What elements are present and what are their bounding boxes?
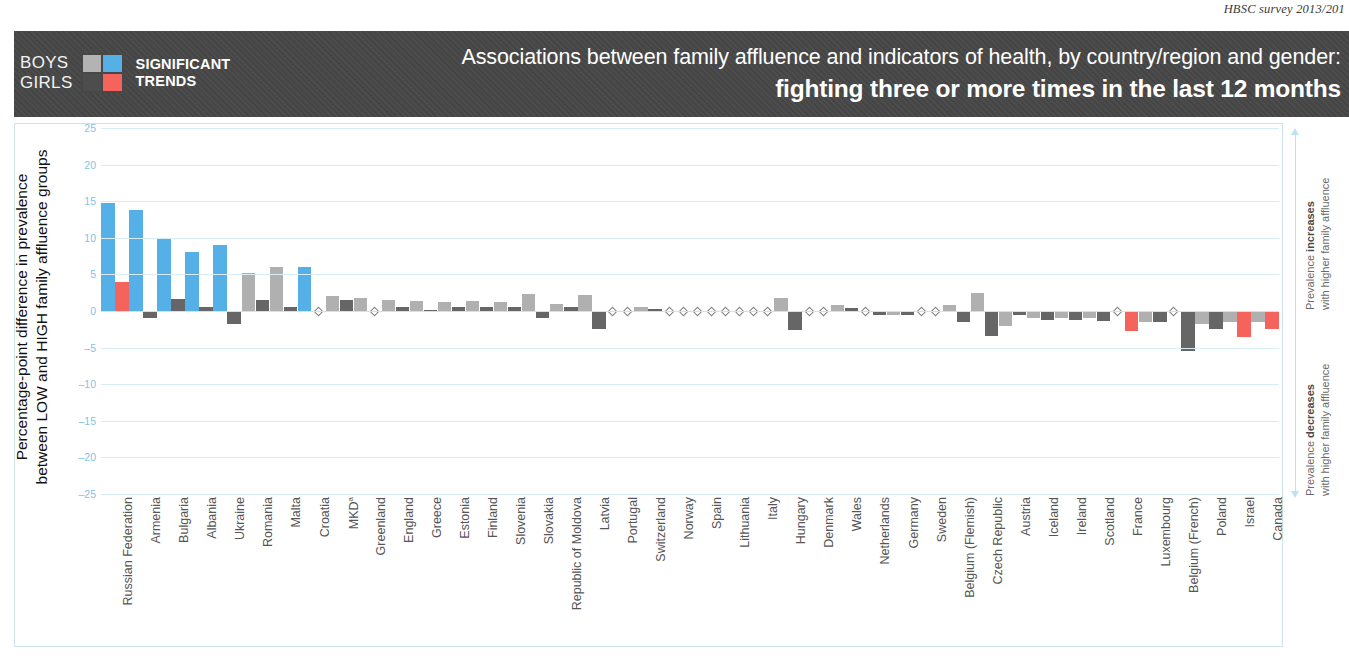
legend-boys-label: BOYS — [20, 53, 73, 73]
x-axis-label: Italy — [766, 497, 780, 520]
plot-area: 2520151050–5–10–15–20–25 — [101, 128, 1279, 494]
x-axis-label: Belgium (French) — [1187, 497, 1201, 593]
bar-boys — [101, 203, 114, 311]
gridline — [101, 494, 1279, 495]
bar-boys — [774, 298, 787, 311]
x-axis-label: Spain — [710, 497, 724, 529]
y-axis-tick-label: 0 — [56, 305, 96, 317]
bar-boys — [1139, 311, 1152, 322]
annotation-increase-bold: increases — [1304, 201, 1316, 252]
x-axis-label: Norway — [682, 497, 696, 539]
x-axis-label: Scotland — [1103, 497, 1117, 546]
bar-boys — [999, 311, 1012, 326]
x-axis-label: Denmark — [822, 497, 836, 548]
x-axis-label: Sweden — [935, 497, 949, 542]
swatch-boys-significant — [103, 55, 122, 72]
x-axis-label: Canada — [1271, 497, 1285, 541]
bar-girls — [1209, 311, 1222, 329]
bar-boys — [1251, 311, 1264, 322]
bar-girls — [985, 311, 998, 336]
bar-boys — [522, 294, 535, 311]
bar-boys — [242, 273, 255, 311]
annotation-decrease-bold: decreases — [1304, 384, 1316, 438]
annotation-increase-line2: with higher family affluence — [1318, 130, 1333, 310]
x-axis-label: MKDa — [346, 497, 361, 529]
x-axis-label: Austria — [1019, 497, 1033, 536]
legend-caption: SIGNIFICANT TRENDS — [136, 56, 231, 89]
bar-boys — [213, 245, 226, 311]
bar-girls — [143, 311, 156, 318]
x-axis-label: Germany — [907, 497, 921, 548]
bar-boys — [578, 295, 591, 311]
swatch-girls-nonsignificant — [83, 74, 102, 91]
bar-boys — [438, 302, 451, 311]
annotation-increase-prefix: Prevalence — [1304, 252, 1316, 310]
y-axis-tick-label: 10 — [56, 232, 96, 244]
bar-girls — [1069, 311, 1082, 320]
bar-girls — [256, 300, 269, 311]
legend-girls-label: GIRLS — [20, 73, 73, 93]
y-axis-title-line1: Percentage-point difference in prevalenc… — [12, 150, 32, 485]
x-axis-label: Hungary — [794, 497, 808, 544]
chart-page: HBSC survey 2013/201 BOYS GIRLS SIGNIFIC… — [0, 0, 1349, 664]
bar-girls — [592, 311, 605, 329]
gridline — [101, 128, 1279, 129]
gridline — [101, 348, 1279, 349]
x-axis-label: Republic of Moldova — [570, 497, 584, 610]
y-axis-tick-label: –20 — [56, 451, 96, 463]
x-axis-label: Luxembourg — [1159, 497, 1173, 567]
bar-boys — [1055, 311, 1068, 318]
gridline — [101, 311, 1279, 312]
x-axis-labels: Russian FederationArmeniaBulgariaAlbania… — [101, 497, 1279, 657]
bar-girls — [1125, 311, 1138, 331]
survey-credit: HBSC survey 2013/201 — [1224, 2, 1345, 17]
x-axis-label: Russian Federation — [121, 497, 135, 605]
y-axis-tick-label: –15 — [56, 415, 96, 427]
gridline — [101, 238, 1279, 239]
x-axis-label: Albania — [205, 497, 219, 539]
bar-boys — [382, 300, 395, 311]
x-axis-label: Ireland — [1075, 497, 1089, 535]
bar-girls — [1041, 311, 1054, 320]
bar-girls — [1237, 311, 1250, 337]
legend: BOYS GIRLS SIGNIFICANT TRENDS — [20, 53, 230, 93]
x-axis-label: Poland — [1215, 497, 1229, 536]
gridline — [101, 457, 1279, 458]
bar-girls — [171, 299, 184, 311]
legend-gender-labels: BOYS GIRLS — [20, 53, 73, 93]
x-axis-label: Israel — [1243, 497, 1257, 528]
x-axis-label: England — [402, 497, 416, 543]
legend-swatch-grid — [81, 53, 124, 93]
y-axis-title-line2: between LOW and HIGH family affluence gr… — [32, 150, 52, 485]
bar-boys — [326, 296, 339, 311]
y-axis-tick-label: –25 — [56, 488, 96, 500]
x-axis-label: Croatia — [318, 497, 332, 537]
bar-boys — [1195, 311, 1208, 324]
bar-girls — [1181, 311, 1194, 351]
y-axis-tick-label: 25 — [56, 122, 96, 134]
bar-boys — [466, 301, 479, 311]
gridline — [101, 384, 1279, 385]
x-axis-label: Romania — [261, 497, 275, 547]
x-axis-label: Armenia — [149, 497, 163, 544]
x-axis-label: Belgium (Flemish) — [963, 497, 977, 598]
swatch-boys-nonsignificant — [83, 55, 102, 72]
bar-girls — [115, 282, 128, 311]
swatch-girls-significant — [103, 74, 122, 91]
bar-boys — [185, 252, 198, 311]
y-axis-tick-label: –10 — [56, 378, 96, 390]
gridline — [101, 274, 1279, 275]
x-axis-label: France — [1131, 497, 1145, 536]
bar-girls — [1265, 311, 1278, 329]
x-axis-label: Greece — [430, 497, 444, 538]
bar-boys — [971, 293, 984, 311]
arrow-down-icon — [1291, 491, 1299, 498]
bar-boys — [1083, 311, 1096, 318]
header-band: BOYS GIRLS SIGNIFICANT TRENDS Associatio… — [14, 31, 1349, 117]
y-axis-tick-label: 15 — [56, 195, 96, 207]
x-axis-label: Bulgaria — [177, 497, 191, 543]
x-axis-label: Ukraine — [233, 497, 247, 540]
arrow-up-icon — [1291, 128, 1299, 135]
bar-boys — [129, 210, 142, 311]
bar-boys — [410, 301, 423, 311]
